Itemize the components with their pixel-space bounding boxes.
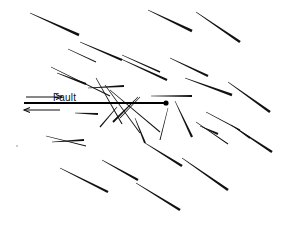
fracture-segment [148, 10, 193, 32]
fault-group [24, 94, 169, 112]
fracture-segment [228, 82, 271, 113]
fracture-segment [135, 118, 146, 143]
fracture-segment [206, 112, 240, 131]
fracture-segment [182, 158, 229, 191]
fracture-segment [120, 97, 141, 119]
fracture-segment [102, 160, 139, 181]
fracture-segment [136, 183, 181, 211]
fracture-segment [100, 107, 118, 128]
fracture-array [30, 10, 273, 211]
fracture-segment [196, 122, 228, 145]
fracture-segment [200, 126, 219, 135]
fracture-segment [121, 59, 168, 81]
fracture-segment [68, 49, 96, 63]
fracture-segment [160, 108, 169, 140]
fracture-segment [57, 73, 87, 85]
fracture-segment [60, 168, 109, 193]
fracture-segment [185, 78, 232, 96]
speck-dot [16, 145, 18, 147]
fault-endpoint-dot [163, 100, 168, 105]
fracture-segment [196, 12, 241, 43]
fracture-segment [75, 113, 98, 115]
fracture-segment [80, 42, 123, 61]
fracture-segment [175, 101, 193, 138]
fracture-segment [236, 128, 251, 139]
fault-label: Fault [53, 93, 76, 103]
fracture-segment [170, 58, 209, 77]
fault-diagram-svg [0, 0, 282, 225]
fracture-segment [122, 55, 160, 73]
lower-shear-arrow [24, 107, 60, 112]
fracture-segment [30, 13, 80, 36]
fracture-segment [145, 143, 183, 167]
fracture-segment [151, 95, 192, 97]
fracture-segment [105, 85, 141, 133]
figure-canvas: Fault [0, 0, 282, 225]
